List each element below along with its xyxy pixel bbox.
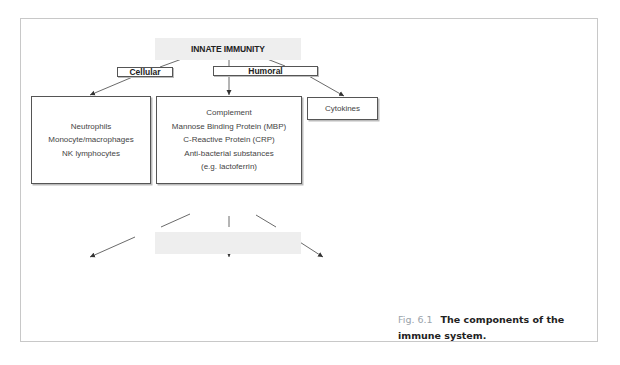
innate-humoral-item: Anti-bacterial substances xyxy=(184,147,273,161)
adaptive-immunity-title xyxy=(155,232,301,254)
innate-cellular-box: Neutrophils Monocyte/macrophages NK lymp… xyxy=(31,96,151,184)
innate-humoral-item: (e.g. lactoferrin) xyxy=(201,160,257,174)
innate-humoral-item: Complement xyxy=(206,106,251,120)
innate-cellular-label: Cellular xyxy=(129,67,160,77)
innate-humoral-box: Complement Mannose Binding Protein (MBP)… xyxy=(156,96,302,184)
innate-cytokines-box: Cytokines xyxy=(307,97,378,120)
innate-title-text: INNATE IMMUNITY xyxy=(191,44,265,54)
innate-humoral-category: Humoral xyxy=(213,66,318,76)
figure-caption: Fig. 6.1The components of the immune sys… xyxy=(398,312,598,344)
innate-cellular-item: Neutrophils xyxy=(71,120,111,134)
innate-cellular-item: Monocyte/macrophages xyxy=(48,133,133,147)
innate-cellular-category: Cellular xyxy=(117,67,173,77)
innate-humoral-label: Humoral xyxy=(248,66,282,76)
innate-cytokines-label: Cytokines xyxy=(325,102,360,116)
innate-humoral-item: C-Reactive Protein (CRP) xyxy=(183,133,275,147)
innate-immunity-title: INNATE IMMUNITY xyxy=(155,38,301,60)
innate-cellular-item: NK lymphocytes xyxy=(62,147,120,161)
figure-number: Fig. 6.1 xyxy=(398,314,433,325)
innate-humoral-item: Mannose Binding Protein (MBP) xyxy=(172,120,286,134)
